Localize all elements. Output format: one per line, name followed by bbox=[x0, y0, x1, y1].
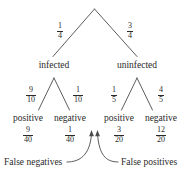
fraction-denominator: 10 bbox=[73, 96, 83, 105]
fraction-denominator: 40 bbox=[65, 136, 75, 145]
fraction-denominator: 20 bbox=[156, 136, 166, 145]
edge-infected-negative bbox=[54, 78, 70, 110]
annotation-false-negatives: False negatives bbox=[4, 157, 62, 168]
fraction-denominator: 20 bbox=[114, 136, 124, 145]
annotation-false-positives: False positives bbox=[121, 157, 177, 168]
fraction-denominator: 4 bbox=[57, 32, 63, 41]
prob-label-infected-negative: 1 10 bbox=[73, 86, 83, 104]
prob-label-uninfected: 3 4 bbox=[127, 22, 133, 40]
fraction-denominator: 5 bbox=[111, 96, 117, 105]
fraction-denominator: 40 bbox=[23, 136, 33, 145]
leaf-uninfected-negative: negative bbox=[145, 113, 177, 123]
false-negatives-arrowhead bbox=[89, 130, 94, 136]
edge-infected-positive bbox=[39, 78, 55, 110]
edge-uninfected-positive bbox=[122, 78, 138, 110]
edge-uninfected-negative bbox=[137, 78, 153, 110]
joint-prob-infected-positive: 9 40 bbox=[23, 126, 33, 144]
probability-tree-diagram: 1 4 3 4 infected uninfected 9 10 1 10 1 … bbox=[0, 0, 188, 176]
prob-label-uninfected-negative: 4 5 bbox=[158, 86, 164, 104]
node-uninfected: uninfected bbox=[117, 60, 157, 70]
node-infected: infected bbox=[39, 60, 70, 70]
joint-prob-infected-negative: 1 40 bbox=[65, 126, 75, 144]
leaf-uninfected-positive: positive bbox=[104, 113, 134, 123]
fraction-denominator: 4 bbox=[127, 32, 133, 41]
leaf-infected-positive: positive bbox=[13, 113, 43, 123]
fraction-denominator: 5 bbox=[158, 96, 164, 105]
joint-prob-uninfected-positive: 3 20 bbox=[114, 126, 124, 144]
leaf-infected-negative: negative bbox=[54, 113, 86, 123]
false-positives-arrowhead bbox=[95, 130, 100, 136]
fraction-denominator: 10 bbox=[26, 96, 36, 105]
prob-label-infected: 1 4 bbox=[57, 22, 63, 40]
prob-label-uninfected-positive: 1 5 bbox=[111, 86, 117, 104]
joint-prob-uninfected-negative: 12 20 bbox=[156, 126, 166, 144]
prob-label-infected-positive: 9 10 bbox=[26, 86, 36, 104]
